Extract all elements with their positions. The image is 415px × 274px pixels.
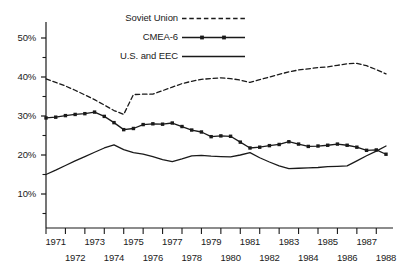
x-axis-tick-label-upper: 1981 <box>234 236 266 247</box>
series-marker <box>345 144 348 147</box>
legend-marker <box>222 36 226 40</box>
series-marker <box>355 146 358 149</box>
series-marker <box>297 142 300 145</box>
series-marker <box>239 140 242 143</box>
series-marker <box>336 142 339 145</box>
series-marker <box>229 135 232 138</box>
y-axis-tick-label: 10% <box>6 188 36 199</box>
x-axis-tick-label-lower: 1984 <box>292 252 324 263</box>
series-marker <box>258 146 261 149</box>
x-axis-tick-label-lower: 1986 <box>331 252 363 263</box>
x-axis-tick-label-upper: 1987 <box>351 236 383 247</box>
series-marker <box>122 128 125 131</box>
x-axis-tick-label-upper: 1985 <box>312 236 344 247</box>
y-axis-tick-label: 20% <box>6 149 36 160</box>
x-axis-tick-label-upper: 1973 <box>79 236 111 247</box>
series-marker <box>209 135 212 138</box>
series-marker <box>219 134 222 137</box>
x-axis-tick-label-lower: 1980 <box>215 252 247 263</box>
y-axis-tick-label: 30% <box>6 110 36 121</box>
x-axis-tick-label-lower: 1976 <box>137 252 169 263</box>
series-marker <box>73 113 76 116</box>
legend-label-cmea-6: CMEA-6 <box>60 31 178 42</box>
series-marker <box>248 146 251 149</box>
x-axis-tick-label-upper: 1983 <box>273 236 305 247</box>
y-axis-tick-label: 40% <box>6 71 36 82</box>
series-marker <box>132 127 135 130</box>
series-line-soviet-union <box>46 63 386 114</box>
series-marker <box>287 140 290 143</box>
x-axis-tick-label-lower: 1974 <box>98 252 130 263</box>
series-marker <box>326 144 329 147</box>
y-axis-tick-label: 50% <box>6 32 36 43</box>
x-axis-tick-label-upper: 1975 <box>117 236 149 247</box>
series-marker <box>141 123 144 126</box>
series-marker <box>64 114 67 117</box>
series-marker <box>316 144 319 147</box>
series-marker <box>307 145 310 148</box>
x-axis-tick-label-upper: 1977 <box>156 236 188 247</box>
x-axis-tick-label-upper: 1979 <box>195 236 227 247</box>
series-marker <box>93 110 96 113</box>
x-axis-tick-label-lower: 1988 <box>370 252 402 263</box>
series-marker <box>200 130 203 133</box>
series-marker <box>54 115 57 118</box>
x-axis-tick-label-lower: 1972 <box>59 252 91 263</box>
series-marker <box>180 125 183 128</box>
legend-marker <box>200 36 204 40</box>
series-marker <box>83 112 86 115</box>
x-axis-tick-label-lower: 1978 <box>176 252 208 263</box>
line-chart: 10%20%30%40%50%1971197319751977197919811… <box>0 0 415 274</box>
legend-label-soviet-union: Soviet Union <box>60 12 178 23</box>
series-marker <box>365 149 368 152</box>
series-marker <box>103 115 106 118</box>
legend-label-u-s-and-eec: U.S. and EEC <box>60 50 178 61</box>
series-marker <box>44 116 47 119</box>
series-marker <box>277 143 280 146</box>
series-marker <box>171 121 174 124</box>
series-marker <box>161 122 164 125</box>
series-marker <box>190 128 193 131</box>
series-line-u-s-and-eec <box>46 145 386 175</box>
series-marker <box>112 121 115 124</box>
series-marker <box>268 144 271 147</box>
x-axis-tick-label-upper: 1971 <box>40 236 72 247</box>
series-marker <box>384 153 387 156</box>
x-axis-tick-label-lower: 1982 <box>253 252 285 263</box>
series-marker <box>151 122 154 125</box>
series-line-cmea-6 <box>46 112 386 154</box>
